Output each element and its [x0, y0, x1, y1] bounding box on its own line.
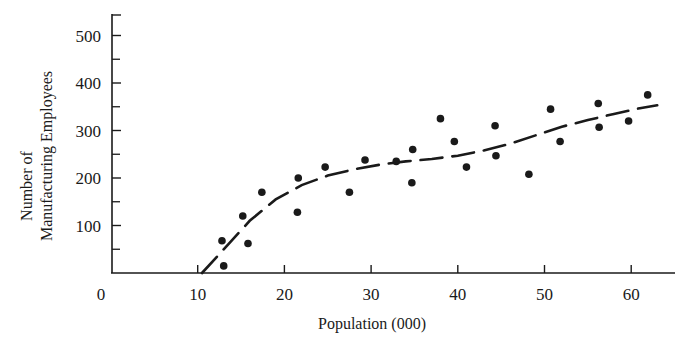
data-point	[239, 212, 247, 220]
data-point	[644, 91, 652, 99]
y-tick-label: 100	[76, 217, 102, 236]
data-point	[361, 156, 369, 164]
data-point	[294, 208, 302, 216]
x-axis-title: Population (000)	[318, 315, 426, 333]
trend-line	[202, 105, 657, 273]
data-point	[218, 237, 226, 245]
y-axis-title-line2: Manufacturing Employees	[38, 71, 56, 241]
data-point	[220, 262, 228, 270]
axes: 1002003004005000102030405060	[76, 14, 676, 304]
data-point	[409, 146, 417, 154]
data-point	[556, 138, 564, 146]
x-tick-label: 40	[449, 285, 466, 304]
data-point	[437, 115, 445, 123]
data-point	[258, 188, 266, 196]
scatter-chart: 1002003004005000102030405060 Population …	[0, 0, 685, 342]
data-point	[625, 117, 633, 125]
data-point	[294, 174, 302, 182]
x-tick-label: 30	[363, 285, 380, 304]
y-tick-label: 300	[76, 122, 102, 141]
y-axis-title-line1: Number of	[18, 150, 35, 220]
x-tick-label: 50	[536, 285, 553, 304]
data-point	[595, 123, 603, 131]
x-tick-label: 60	[623, 285, 640, 304]
data-point	[408, 179, 416, 187]
data-point	[451, 138, 459, 146]
data-point	[594, 100, 602, 108]
data-point	[244, 240, 252, 248]
data-point	[321, 163, 329, 171]
data-point	[346, 188, 354, 196]
chart-canvas: 1002003004005000102030405060 Population …	[0, 0, 685, 342]
data-point	[463, 163, 471, 171]
data-points	[218, 91, 651, 270]
data-point	[491, 122, 499, 130]
x-tick-label: 0	[97, 285, 106, 304]
y-tick-label: 200	[76, 169, 102, 188]
data-point	[525, 170, 533, 178]
x-tick-label: 10	[189, 285, 206, 304]
data-point	[392, 158, 400, 166]
data-point	[547, 105, 555, 113]
dashed-trend-line	[202, 105, 657, 273]
x-tick-label: 20	[276, 285, 293, 304]
data-point	[492, 152, 500, 160]
y-tick-label: 400	[76, 74, 102, 93]
y-tick-label: 500	[76, 27, 102, 46]
